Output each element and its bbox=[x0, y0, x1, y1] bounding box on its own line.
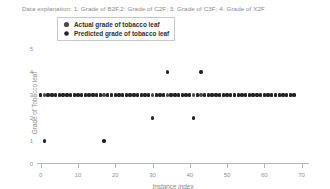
data-point-pred bbox=[233, 93, 236, 96]
x-axis-tick bbox=[227, 164, 228, 168]
x-axis-tick bbox=[264, 164, 265, 168]
x-axis-tick-label: 10 bbox=[75, 172, 82, 178]
y-axis-label: Grade of Tobacco leaf bbox=[31, 72, 38, 134]
data-point-pred bbox=[218, 93, 221, 96]
chart-legend: Actual grade of tobacco leaf Predicted g… bbox=[57, 17, 175, 41]
x-axis-tick bbox=[115, 164, 116, 168]
legend-item-predicted: Predicted grade of tobacco leaf bbox=[62, 29, 169, 38]
data-point-pred bbox=[192, 116, 195, 119]
data-point-pred bbox=[199, 70, 202, 73]
legend-item-actual: Actual grade of tobacco leaf bbox=[62, 20, 169, 29]
legend-label-predicted: Predicted grade of tobacco leaf bbox=[74, 29, 169, 38]
y-axis-tick-label: 0 bbox=[25, 161, 33, 167]
legend-label-actual: Actual grade of tobacco leaf bbox=[74, 20, 160, 29]
data-point-pred bbox=[177, 93, 180, 96]
x-axis-tick-label: 60 bbox=[261, 172, 268, 178]
data-point-pred bbox=[188, 93, 191, 96]
x-axis-tick bbox=[78, 164, 79, 168]
y-axis-tick-label: 2 bbox=[25, 115, 33, 121]
data-point-pred bbox=[106, 93, 109, 96]
filled-circle-marker-icon bbox=[62, 20, 71, 29]
data-explanation-text: Data explanation: 1: Grade of B2F,2: Gra… bbox=[22, 5, 265, 12]
y-axis-tick-label: 3 bbox=[25, 92, 33, 98]
data-point-pred bbox=[151, 116, 154, 119]
data-point-pred bbox=[244, 93, 247, 96]
x-axis-tick bbox=[41, 164, 42, 168]
data-point-pred bbox=[65, 93, 68, 96]
data-point-pred bbox=[196, 93, 199, 96]
data-point-pred bbox=[292, 93, 295, 96]
data-point-pred bbox=[121, 93, 124, 96]
data-point-pred bbox=[285, 93, 288, 96]
data-point-pred bbox=[39, 93, 42, 96]
x-axis-tick-label: 70 bbox=[298, 172, 305, 178]
data-point-pred bbox=[54, 93, 57, 96]
scatter-chart-figure: Data explanation: 1: Grade of B2F,2: Gra… bbox=[0, 0, 330, 189]
data-point-pred bbox=[274, 93, 277, 96]
data-point-actual bbox=[151, 93, 154, 96]
data-point-pred bbox=[69, 93, 72, 96]
x-axis-tick bbox=[190, 164, 191, 168]
data-point-pred bbox=[229, 93, 232, 96]
data-point-pred bbox=[80, 93, 83, 96]
data-point-pred bbox=[95, 93, 98, 96]
x-axis-tick-label: 30 bbox=[149, 172, 156, 178]
filled-circle-marker-icon bbox=[62, 29, 71, 38]
data-point-pred bbox=[147, 93, 150, 96]
y-axis-tick-label: 4 bbox=[25, 69, 33, 75]
data-point-pred bbox=[136, 93, 139, 96]
x-axis-tick-label: 0 bbox=[39, 172, 42, 178]
x-axis-tick bbox=[302, 164, 303, 168]
data-point-pred bbox=[110, 93, 113, 96]
y-axis-tick-label: 1 bbox=[25, 138, 33, 144]
x-axis-tick-label: 20 bbox=[112, 172, 119, 178]
data-point-actual bbox=[192, 93, 195, 96]
data-point-pred bbox=[259, 93, 262, 96]
x-axis-label: Instance index bbox=[37, 183, 309, 189]
x-axis-tick-label: 40 bbox=[186, 172, 193, 178]
data-point-pred bbox=[162, 93, 165, 96]
data-point-pred bbox=[203, 93, 206, 96]
data-point-pred bbox=[166, 70, 169, 73]
plot-area: Instance index Grade of Tobacco leaf 010… bbox=[37, 42, 309, 164]
data-point-pred bbox=[43, 139, 46, 142]
y-axis-tick-label: 5 bbox=[25, 46, 33, 52]
x-axis-tick-label: 50 bbox=[224, 172, 231, 178]
x-axis-tick bbox=[153, 164, 154, 168]
data-point-pred bbox=[99, 93, 102, 96]
data-point-pred bbox=[102, 139, 105, 142]
data-point-pred bbox=[270, 93, 273, 96]
